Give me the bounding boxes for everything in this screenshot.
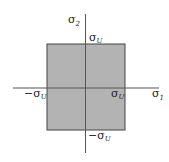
sigma1-axis-label: σ1 (152, 87, 164, 102)
label-top-sigma-u: σU (89, 31, 104, 45)
diagram-root: σ2 σ1 σU σU −σU −σU (0, 0, 169, 162)
label-left-neg-sigma-u: −σU (24, 87, 48, 101)
failure-envelope-diagram: σ2 σ1 σU σU −σU −σU (0, 0, 169, 162)
label-bottom-neg-sigma-u: −σU (88, 129, 112, 143)
sigma2-axis-label: σ2 (68, 13, 81, 28)
